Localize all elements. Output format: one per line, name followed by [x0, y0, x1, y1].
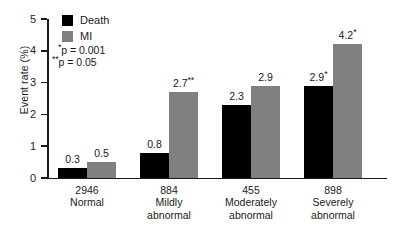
significance-notes: *p = 0.001**p = 0.05 [48, 44, 105, 68]
category-name: Moderatelyabnormal [206, 196, 296, 221]
x-axis-category: 2946Normal [42, 184, 132, 209]
y-axis-tick [41, 18, 47, 20]
bar-value-label: 2.7** [163, 78, 204, 89]
legend-label: MI [80, 31, 92, 42]
legend-swatch-mi [62, 31, 73, 42]
bar-mi-1 [87, 162, 116, 178]
y-axis-tick-label: 1 [14, 141, 36, 152]
legend-item-mi: MI [62, 29, 109, 44]
y-axis-tick [41, 82, 47, 84]
y-axis-tick [41, 145, 47, 147]
grouped-bar-chart: Event rate (%) 012345 0.30.50.82.7**2.32… [0, 0, 404, 234]
category-count: 455 [206, 184, 296, 196]
category-count: 898 [288, 184, 378, 196]
legend-swatch-death [62, 15, 73, 26]
bar-mi-3 [251, 86, 280, 178]
bar-value-label: 4.2* [327, 30, 368, 41]
y-axis-tick [41, 114, 47, 116]
bar-value-label: 0.5 [81, 148, 122, 159]
legend: DeathMI [62, 13, 109, 45]
y-axis-tick-label: 2 [14, 109, 36, 120]
category-count: 2946 [42, 184, 132, 196]
y-axis-tick-label: 0 [14, 173, 36, 184]
category-name: Severelyabnormal [288, 196, 378, 221]
category-name: Mildlyabnormal [124, 196, 214, 221]
y-axis-tick-label: 3 [14, 77, 36, 88]
x-axis-category: 884Mildlyabnormal [124, 184, 214, 221]
bar-death-3 [222, 105, 251, 178]
bar-value-label: 2.9 [245, 72, 286, 83]
x-axis-category: 455Moderatelyabnormal [206, 184, 296, 221]
x-axis-category: 898Severelyabnormal [288, 184, 378, 221]
bar-death-1 [58, 168, 87, 178]
bar-mi-2 [169, 92, 198, 178]
category-count: 884 [124, 184, 214, 196]
y-axis-tick-label: 5 [14, 14, 36, 25]
y-axis-tick-label: 4 [14, 45, 36, 56]
significance-text: p = 0.05 [58, 56, 96, 68]
bar-mi-4 [333, 44, 362, 178]
y-axis-tick [41, 50, 47, 52]
legend-item-death: Death [62, 13, 109, 28]
category-name: Normal [42, 196, 132, 208]
significance-text: p = 0.001 [61, 44, 105, 56]
significance-note: **p = 0.05 [48, 56, 105, 68]
bar-death-2 [140, 153, 169, 178]
bar-death-4 [304, 86, 333, 178]
legend-label: Death [80, 15, 109, 26]
